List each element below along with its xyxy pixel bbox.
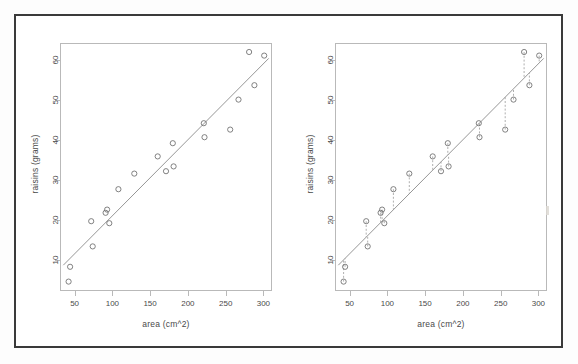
x-tick-label: 300 bbox=[254, 299, 272, 308]
y-tick-label: 10 bbox=[326, 251, 335, 269]
figure-page: area (cm^2) raisins (grams) 501001502002… bbox=[0, 0, 578, 364]
page-speck bbox=[546, 206, 549, 215]
figure-frame: area (cm^2) raisins (grams) 501001502002… bbox=[14, 14, 563, 348]
x-tick-mark bbox=[75, 291, 76, 296]
y-tick-label: 50 bbox=[326, 91, 335, 109]
x-tick-mark bbox=[538, 291, 539, 296]
x-tick-mark bbox=[425, 291, 426, 296]
scatter-plot-left bbox=[61, 44, 271, 290]
y-tick-label: 60 bbox=[51, 51, 60, 69]
y-tick-label: 50 bbox=[51, 91, 60, 109]
y-tick-label: 30 bbox=[326, 171, 335, 189]
x-tick-label: 50 bbox=[66, 299, 84, 308]
plot-area-right bbox=[335, 43, 547, 291]
scatter-plot-right bbox=[336, 44, 546, 290]
x-tick-mark bbox=[463, 291, 464, 296]
x-axis-title-right: area (cm^2) bbox=[335, 319, 547, 329]
x-tick-mark bbox=[188, 291, 189, 296]
x-tick-label: 150 bbox=[416, 299, 434, 308]
x-tick-label: 50 bbox=[341, 299, 359, 308]
y-tick-label: 20 bbox=[51, 211, 60, 229]
x-tick-mark bbox=[263, 291, 264, 296]
x-tick-label: 200 bbox=[179, 299, 197, 308]
x-tick-label: 100 bbox=[378, 299, 396, 308]
chart-panel-left: area (cm^2) raisins (grams) 501001502002… bbox=[16, 16, 290, 350]
x-tick-mark bbox=[387, 291, 388, 296]
y-tick-label: 60 bbox=[326, 51, 335, 69]
x-tick-label: 150 bbox=[141, 299, 159, 308]
x-tick-mark bbox=[150, 291, 151, 296]
x-tick-label: 300 bbox=[529, 299, 547, 308]
x-tick-mark bbox=[350, 291, 351, 296]
x-axis-title-left: area (cm^2) bbox=[60, 319, 272, 329]
y-tick-label: 10 bbox=[51, 251, 60, 269]
y-axis-title-left: raisins (grams) bbox=[30, 119, 40, 209]
y-tick-label: 20 bbox=[326, 211, 335, 229]
x-tick-label: 250 bbox=[217, 299, 235, 308]
y-tick-label: 30 bbox=[51, 171, 60, 189]
y-tick-label: 40 bbox=[326, 131, 335, 149]
x-tick-mark bbox=[112, 291, 113, 296]
y-axis-title-right: raisins (grams) bbox=[305, 119, 315, 209]
plot-area-left bbox=[60, 43, 272, 291]
chart-panel-right: area (cm^2) raisins (grams) 501001502002… bbox=[291, 16, 565, 350]
x-tick-label: 100 bbox=[103, 299, 121, 308]
x-tick-label: 200 bbox=[454, 299, 472, 308]
y-tick-label: 40 bbox=[51, 131, 60, 149]
x-tick-mark bbox=[226, 291, 227, 296]
x-tick-label: 250 bbox=[492, 299, 510, 308]
x-tick-mark bbox=[501, 291, 502, 296]
